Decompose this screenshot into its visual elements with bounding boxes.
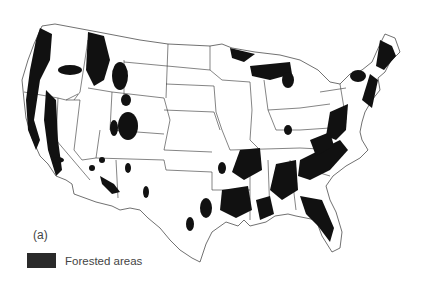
us-outline <box>22 24 400 262</box>
legend-label-forest: Forested areas <box>65 255 142 267</box>
legend: Forested areas <box>27 253 142 268</box>
panel-label: (a) <box>33 228 48 242</box>
us-forest-map <box>0 0 426 289</box>
legend-swatch-forest <box>27 253 56 268</box>
